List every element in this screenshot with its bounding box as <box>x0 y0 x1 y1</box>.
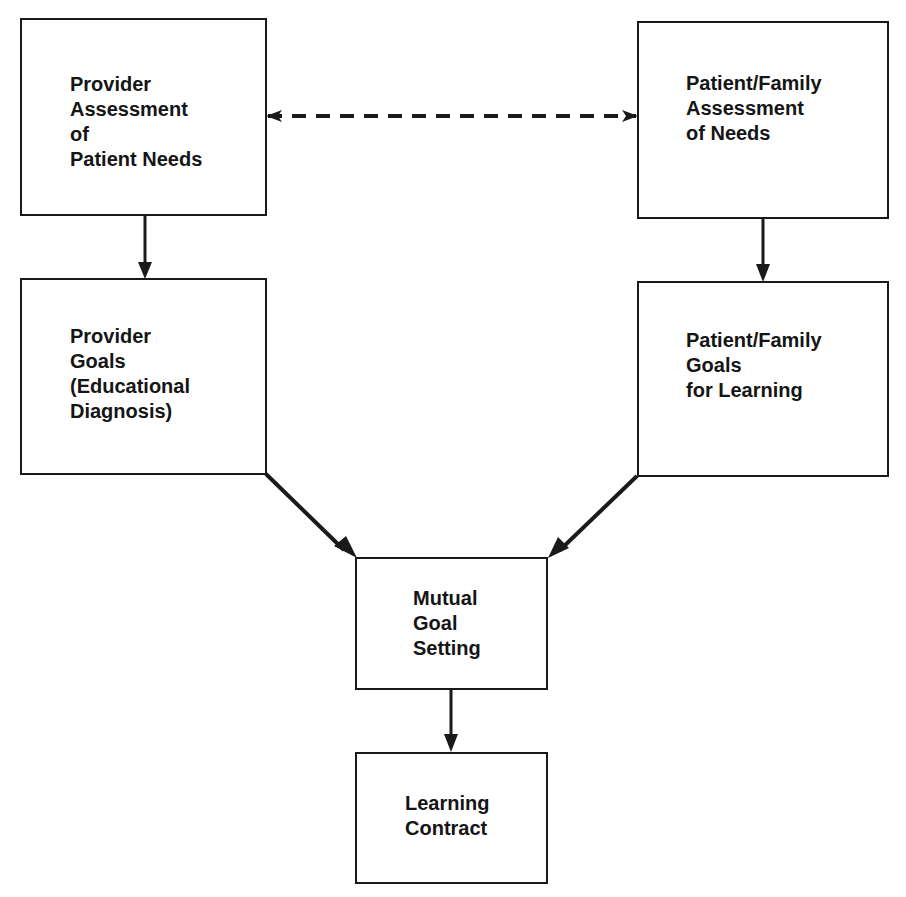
node-label: Mutual Goal Setting <box>413 586 481 661</box>
node-label: Provider Goals (Educational Diagnosis) <box>70 324 190 424</box>
arrow-provider-goals-to-mutual <box>266 474 357 558</box>
dashed-bidirectional-arrow <box>266 110 638 122</box>
arrow-mutual-to-contract <box>444 689 458 752</box>
flowchart-canvas: Provider Assessment of Patient Needs Pat… <box>0 0 906 897</box>
node-learning-contract: Learning Contract <box>355 752 548 884</box>
node-patient-goals: Patient/Family Goals for Learning <box>637 281 889 477</box>
arrow-patient-assessment-to-goals <box>756 219 770 282</box>
arrow-patient-goals-to-mutual <box>548 476 637 558</box>
node-patient-assessment: Patient/Family Assessment of Needs <box>637 21 889 219</box>
node-label: Patient/Family Goals for Learning <box>686 328 822 403</box>
node-label: Provider Assessment of Patient Needs <box>70 72 202 172</box>
arrow-provider-assessment-to-goals <box>138 215 152 279</box>
node-label: Patient/Family Assessment of Needs <box>686 71 822 146</box>
arrowhead-right-icon <box>622 110 638 122</box>
node-mutual-goal-setting: Mutual Goal Setting <box>355 557 548 690</box>
node-label: Learning Contract <box>405 791 489 841</box>
node-provider-assessment: Provider Assessment of Patient Needs <box>20 18 267 216</box>
node-provider-goals: Provider Goals (Educational Diagnosis) <box>20 278 267 475</box>
